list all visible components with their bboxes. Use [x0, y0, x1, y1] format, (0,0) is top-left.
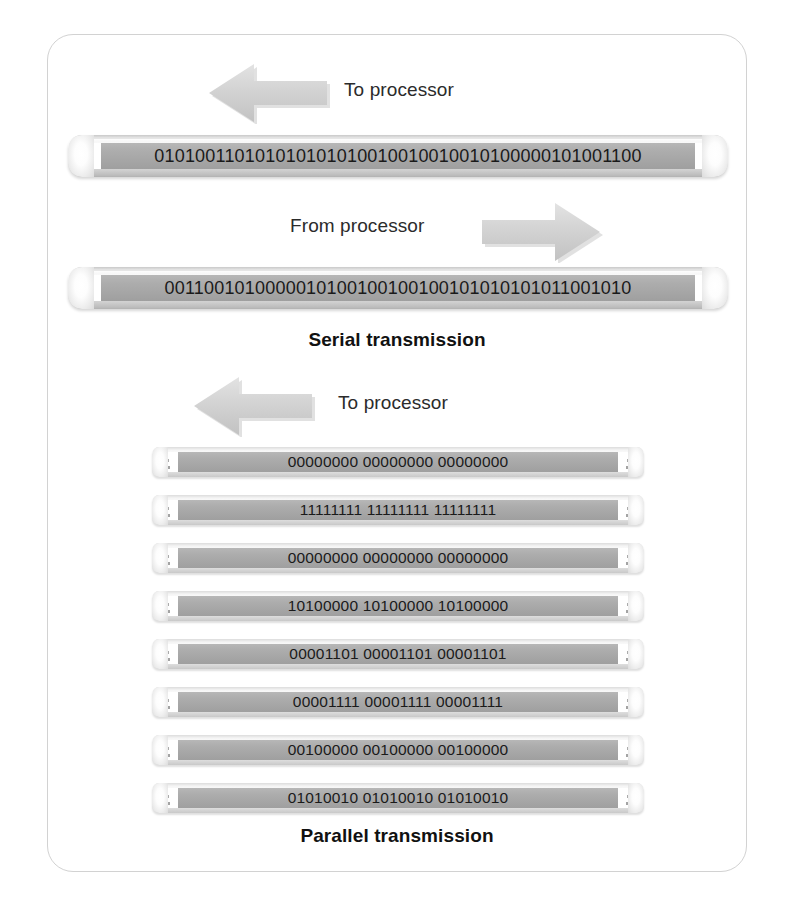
data-ribbon: 10100000 10100000 10100000 — [165, 596, 631, 616]
cable-cap-left — [152, 495, 168, 525]
data-ribbon: 0101001101010101010100100100100101000001… — [88, 143, 708, 169]
data-ribbon: 00001101 00001101 00001101 — [165, 644, 631, 664]
data-ribbon: 0011001010000010100100100100101010101011… — [88, 275, 708, 301]
parallel-cable-row-4: 10100000 10100000 10100000 — [152, 591, 644, 621]
parallel-cable-row-5: 00001101 00001101 00001101 — [152, 639, 644, 669]
parallel-transmission-caption: Parallel transmission — [48, 825, 746, 847]
serial-bits-to-processor: 0101001101010101010100100100100101000001… — [154, 147, 641, 165]
figure-panel: To processor 010100110101010101010010010… — [47, 34, 747, 872]
parallel-bits-row-6: 00001111 00001111 00001111 — [293, 694, 503, 710]
cable-cap-left — [152, 639, 168, 669]
parallel-bits-row-3: 00000000 00000000 00000000 — [288, 550, 509, 566]
data-ribbon: 11111111 11111111 11111111 — [165, 500, 631, 520]
cable-cap-right — [702, 135, 728, 177]
parallel-cable-row-2: 11111111 11111111 11111111 — [152, 495, 644, 525]
serial-cable-to-processor: 0101001101010101010100100100100101000001… — [68, 135, 728, 177]
parallel-cable-row-7: 00100000 00100000 00100000 — [152, 735, 644, 765]
serial-transmission-caption: Serial transmission — [48, 329, 746, 351]
cable-cap-right — [628, 687, 644, 717]
data-ribbon: 00100000 00100000 00100000 — [165, 740, 631, 760]
parallel-bits-row-4: 10100000 10100000 10100000 — [288, 598, 509, 614]
parallel-bits-row-7: 00100000 00100000 00100000 — [288, 742, 509, 758]
cable-cap-left — [152, 543, 168, 573]
parallel-bits-row-2: 11111111 11111111 11111111 — [300, 502, 497, 518]
arrow-right-icon — [480, 201, 605, 263]
data-ribbon: 00001111 00001111 00001111 — [165, 692, 631, 712]
data-ribbon: 00000000 00000000 00000000 — [165, 452, 631, 472]
parallel-cable-row-8: 01010010 01010010 01010010 — [152, 783, 644, 813]
arrow-left-icon — [191, 375, 316, 437]
data-ribbon: 01010010 01010010 01010010 — [165, 788, 631, 808]
parallel-cable-row-1: 00000000 00000000 00000000 — [152, 447, 644, 477]
cable-cap-right — [628, 783, 644, 813]
cable-cap-left — [68, 267, 94, 309]
cable-cap-left — [152, 735, 168, 765]
parallel-bits-row-5: 00001101 00001101 00001101 — [289, 646, 506, 662]
cable-cap-right — [628, 735, 644, 765]
cable-cap-left — [152, 687, 168, 717]
serial-from-processor-label: From processor — [290, 215, 424, 237]
arrow-left-icon — [206, 62, 331, 124]
cable-cap-right — [702, 267, 728, 309]
cable-cap-right — [628, 495, 644, 525]
parallel-cable-row-6: 00001111 00001111 00001111 — [152, 687, 644, 717]
cable-cap-right — [628, 447, 644, 477]
parallel-bits-row-1: 00000000 00000000 00000000 — [288, 454, 509, 470]
parallel-bits-row-8: 01010010 01010010 01010010 — [288, 790, 509, 806]
cable-cap-left — [152, 783, 168, 813]
cable-cap-right — [628, 543, 644, 573]
serial-bits-from-processor: 0011001010000010100100100100101010101011… — [164, 279, 631, 297]
serial-cable-from-processor: 0011001010000010100100100100101010101011… — [68, 267, 728, 309]
cable-cap-left — [152, 447, 168, 477]
serial-to-processor-label: To processor — [344, 79, 454, 101]
parallel-cable-row-3: 00000000 00000000 00000000 — [152, 543, 644, 573]
cable-cap-left — [152, 591, 168, 621]
cable-cap-right — [628, 591, 644, 621]
cable-cap-right — [628, 639, 644, 669]
cable-cap-left — [68, 135, 94, 177]
data-ribbon: 00000000 00000000 00000000 — [165, 548, 631, 568]
parallel-to-processor-label: To processor — [338, 392, 448, 414]
